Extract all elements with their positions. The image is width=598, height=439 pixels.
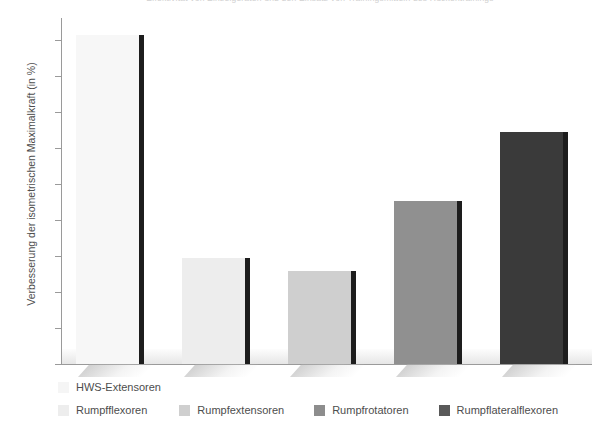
- legend-item[interactable]: Rumpfflexoren: [58, 404, 147, 416]
- legend-swatch: [314, 405, 325, 416]
- bar-chart: Verbesserung der isometrischen Maximalkr…: [0, 0, 598, 378]
- legend-item-label: Rumpfrotatoren: [332, 404, 408, 416]
- y-tick-mark: [55, 364, 61, 365]
- bar-face: [76, 35, 139, 364]
- y-tick-mark: [55, 76, 61, 77]
- bar: [182, 258, 245, 364]
- y-axis-title: Verbesserung der isometrischen Maximalkr…: [25, 14, 37, 354]
- legend-swatch: [439, 405, 450, 416]
- legend-item-label: Rumpfextensoren: [197, 404, 284, 416]
- bar-shadow: [396, 364, 471, 377]
- bar: [288, 271, 351, 364]
- bar-face: [500, 132, 563, 364]
- legend-item-label: HWS-Extensoren: [76, 381, 161, 393]
- bar-shadow: [184, 364, 259, 377]
- bar-side-3d: [563, 132, 568, 364]
- y-tick-mark: [55, 112, 61, 113]
- y-tick-mark: [55, 184, 61, 185]
- legend-item[interactable]: Rumpflateralflexoren: [439, 404, 559, 416]
- legend-row-primary: HWS-Extensoren: [58, 381, 161, 393]
- bar: [76, 35, 139, 364]
- bar: [394, 201, 457, 364]
- y-tick-mark: [55, 256, 61, 257]
- chart-legend: HWS-Extensoren RumpfflexorenRumpfextenso…: [0, 378, 598, 439]
- legend-row-secondary: RumpfflexorenRumpfextensorenRumpfrotator…: [58, 404, 558, 416]
- legend-swatch: [58, 382, 69, 393]
- bar-face: [182, 258, 245, 364]
- bar-shadow: [290, 364, 365, 377]
- bar-side-3d: [351, 271, 356, 364]
- bar-face: [288, 271, 351, 364]
- legend-item-label: Rumpflateralflexoren: [457, 404, 559, 416]
- legend-item[interactable]: HWS-Extensoren: [58, 381, 161, 393]
- legend-swatch: [179, 405, 190, 416]
- y-axis-line: [61, 18, 62, 365]
- legend-item[interactable]: Rumpfrotatoren: [314, 404, 408, 416]
- y-tick-mark: [55, 220, 61, 221]
- y-tick-mark: [55, 328, 61, 329]
- bar-side-3d: [139, 35, 144, 364]
- y-tick-mark: [55, 40, 61, 41]
- bar-shadow: [78, 364, 153, 377]
- bar-shadow: [502, 364, 577, 377]
- bar: [500, 132, 563, 364]
- bar-face: [394, 201, 457, 364]
- y-tick-mark: [55, 148, 61, 149]
- bar-side-3d: [245, 258, 250, 364]
- bar-side-3d: [457, 201, 462, 364]
- y-tick-mark: [55, 292, 61, 293]
- legend-item[interactable]: Rumpfextensoren: [179, 404, 284, 416]
- legend-swatch: [58, 405, 69, 416]
- legend-item-label: Rumpfflexoren: [76, 404, 147, 416]
